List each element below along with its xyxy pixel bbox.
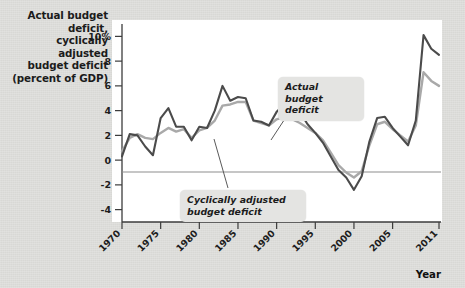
y-tick-label-3: 4 (104, 105, 111, 116)
y-tick-label-0: 10% (88, 31, 111, 42)
line-chart: 10%86420-2-4 197019751980198519901995200… (0, 0, 465, 288)
x-axis-label: Year (415, 269, 441, 280)
x-tick-label-1: 1975 (135, 228, 161, 254)
x-tick-label-5: 1995 (290, 228, 316, 254)
x-tick-label-6: 2000 (328, 227, 354, 253)
y-tick-label-5: 0 (104, 155, 111, 166)
y-axis-ticks: 10%86420-2-4 (88, 31, 122, 215)
x-tick-label-7: 2005 (367, 228, 393, 254)
cyclical-callout-leader (214, 139, 228, 188)
actual-budget-deficit-annotation: Actual budget deficit (278, 77, 364, 121)
y-tick-label-6: -2 (100, 179, 111, 190)
x-axis-ticks: 197019751980198519901995200020052011 (96, 222, 439, 254)
y-tick-label-4: 2 (104, 130, 111, 141)
x-tick-label-8: 2011 (413, 228, 439, 254)
cyclical-annotation-line-2: budget deficit (187, 206, 299, 218)
x-tick-label-3: 1985 (212, 228, 238, 254)
y-tick-label-7: -4 (100, 204, 111, 215)
actual-annotation-line-2: deficit (285, 104, 357, 116)
figure-canvas: Actual budget deficit, cyclically adjust… (0, 0, 465, 288)
y-tick-label-2: 6 (104, 80, 111, 91)
x-tick-label-0: 1970 (96, 227, 122, 253)
x-tick-label-2: 1980 (174, 227, 200, 253)
cyclically-adjusted-annotation: Cyclically adjusted budget deficit (180, 190, 306, 222)
y-tick-label-1: 8 (104, 56, 111, 67)
cyclical-annotation-line-1: Cyclically adjusted (187, 194, 299, 206)
actual-annotation-line-1: Actual budget (285, 81, 357, 104)
x-tick-label-4: 1990 (251, 227, 277, 253)
